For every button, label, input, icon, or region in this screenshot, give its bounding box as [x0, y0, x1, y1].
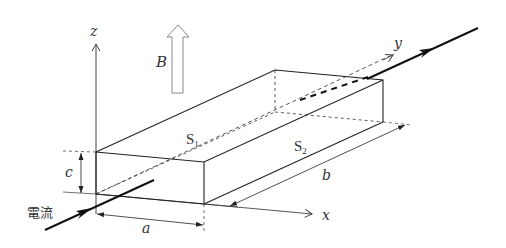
surface-s1-subscript: 1 — [194, 139, 199, 149]
current-wire-in — [45, 180, 154, 230]
surface-s2-label: S2 — [294, 139, 307, 156]
surface-s2-subscript: 2 — [302, 146, 307, 156]
dimension-c-label: c — [65, 165, 73, 179]
y-axis-tip — [383, 55, 393, 60]
x-axis-label: x — [322, 208, 330, 222]
z-axis-label: z — [90, 24, 97, 38]
dim-b-ext-top — [383, 122, 412, 125]
y-axis-label: y — [394, 36, 402, 50]
dim-c-ext-top — [63, 151, 96, 152]
current-arrow-in-icon — [76, 208, 92, 219]
dimension-a-label: a — [142, 221, 150, 235]
hall-effect-diagram — [0, 0, 506, 248]
y-axis-hidden — [96, 54, 394, 194]
conductor-box — [96, 70, 383, 204]
magnetic-field-label: B — [156, 55, 167, 70]
current-wire-out — [367, 28, 478, 79]
dim-c-ext-bottom — [63, 192, 96, 194]
magnetic-field-arrow-icon — [167, 25, 189, 93]
surface-s1-label: S1 — [186, 132, 199, 149]
box-hidden-edge-left-bottom — [96, 112, 275, 194]
box-hidden-edge-back-bottom — [275, 112, 383, 122]
dimension-b-label: b — [322, 168, 331, 182]
current-wire-inside — [300, 77, 368, 100]
dim-b-line — [230, 125, 405, 206]
current-label: 電流 — [27, 206, 53, 219]
y-axis — [393, 54, 394, 55]
